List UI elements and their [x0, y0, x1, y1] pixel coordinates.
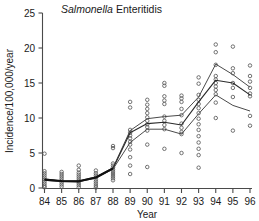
data-point — [43, 152, 47, 156]
x-tick-label: 93 — [193, 196, 205, 207]
y-axis-title: Incidence/100,000/year — [4, 48, 15, 153]
x-tick-label: 84 — [39, 196, 51, 207]
data-point — [128, 164, 132, 168]
data-point — [146, 98, 150, 102]
x-tick-label: 88 — [107, 196, 119, 207]
data-point — [197, 141, 201, 145]
data-point — [180, 151, 184, 155]
data-point — [180, 126, 184, 130]
x-tick-label: 90 — [142, 196, 154, 207]
data-point — [197, 82, 201, 86]
data-point — [231, 129, 235, 133]
data-point — [180, 100, 184, 104]
data-point — [197, 123, 201, 127]
y-tick-label: 25 — [24, 8, 36, 19]
data-point — [197, 106, 201, 110]
svg-text:Salmonella Enteritidis: Salmonella Enteritidis — [61, 3, 162, 15]
x-tick-label: 86 — [73, 196, 85, 207]
data-point — [128, 100, 132, 104]
y-tick-label: 0 — [29, 183, 35, 194]
data-point — [77, 164, 81, 168]
data-point — [180, 107, 184, 111]
x-tick-label: 94 — [210, 196, 222, 207]
data-point — [146, 103, 150, 107]
data-point — [214, 101, 218, 105]
data-point — [248, 124, 252, 128]
data-point — [197, 128, 201, 132]
chart-title: Salmonella Enteritidis — [61, 3, 162, 15]
x-tick-label: 91 — [159, 196, 171, 207]
x-tick-label: 89 — [125, 196, 137, 207]
data-point — [214, 43, 218, 47]
x-tick-label: 85 — [56, 196, 68, 207]
data-point — [128, 148, 132, 152]
data-point — [146, 143, 150, 147]
data-point — [128, 106, 132, 110]
x-tick-label: 87 — [90, 196, 102, 207]
data-point — [128, 172, 132, 176]
data-point — [163, 123, 167, 127]
data-point — [163, 147, 167, 151]
data-point — [214, 74, 218, 78]
data-point — [248, 64, 252, 68]
x-tick-label: 96 — [244, 196, 256, 207]
data-point — [163, 102, 167, 106]
data-point — [248, 114, 252, 118]
chart-container: Salmonella Enteritidis 0510152025 848586… — [0, 0, 259, 221]
data-point — [146, 111, 150, 115]
y-tick-label: 20 — [24, 43, 36, 54]
trend-line-median-fit — [45, 80, 251, 181]
scatter-plot-svg: Salmonella Enteritidis 0510152025 848586… — [0, 0, 259, 221]
data-point — [231, 86, 235, 90]
y-axis-ticks — [39, 13, 43, 188]
x-tick-label: 92 — [176, 196, 188, 207]
data-point — [214, 50, 218, 54]
data-point — [197, 147, 201, 151]
x-axis-tick-labels: 84858687888990919293949596 — [39, 196, 256, 207]
y-tick-label: 15 — [24, 78, 36, 89]
data-point — [163, 95, 167, 99]
data-point — [248, 80, 252, 84]
data-point — [197, 153, 201, 157]
y-tick-label: 5 — [29, 148, 35, 159]
data-point — [197, 134, 201, 138]
data-point — [248, 74, 252, 78]
data-point — [128, 155, 132, 159]
scatter-points-layer — [43, 43, 252, 190]
data-point — [231, 95, 235, 99]
title-genus: Salmonella — [61, 3, 113, 15]
data-point — [197, 117, 201, 121]
data-point — [163, 99, 167, 103]
x-axis-ticks — [45, 189, 251, 194]
data-point — [214, 116, 218, 120]
data-point — [214, 85, 218, 89]
data-point — [197, 166, 201, 170]
data-point — [197, 76, 201, 80]
x-tick-label: 95 — [227, 196, 239, 207]
y-axis-tick-labels: 0510152025 — [24, 8, 36, 194]
data-point — [146, 165, 150, 169]
x-axis-title: Year — [137, 209, 158, 220]
data-point — [231, 45, 235, 49]
data-point — [231, 67, 235, 71]
chart-axes — [43, 13, 253, 189]
title-species: Enteritidis — [116, 3, 162, 15]
data-point — [214, 88, 218, 92]
y-tick-label: 10 — [24, 113, 36, 124]
data-point — [146, 107, 150, 111]
